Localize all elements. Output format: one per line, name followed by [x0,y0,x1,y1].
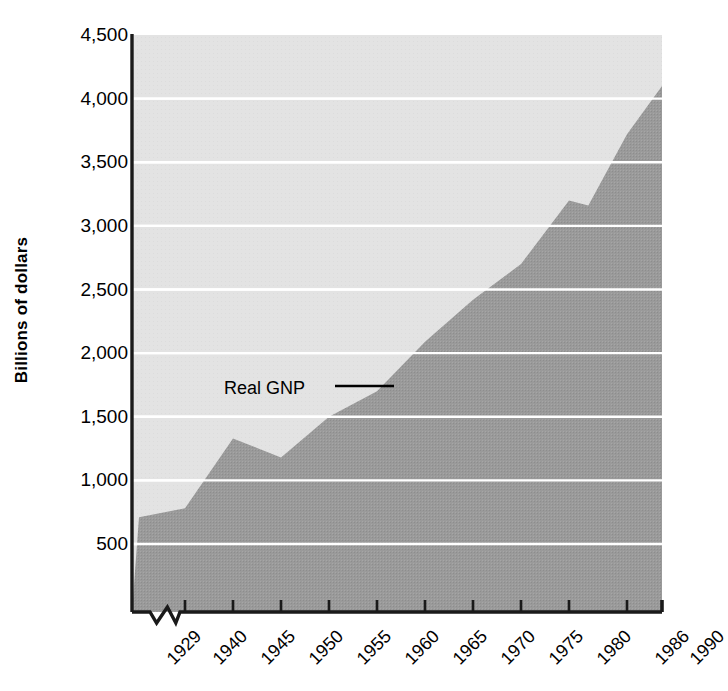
y-axis-tick-label: 4,500 [56,24,128,46]
y-axis-tick-label: 4,000 [56,88,128,110]
y-axis-tick-label: 1,500 [56,406,128,428]
y-axis-tick-label: 2,500 [56,279,128,301]
real-gnp-annotation-label: Real GNP [224,378,305,399]
y-axis-tick-labels: 5001,0001,5002,0002,5003,0003,5004,0004,… [48,0,128,691]
y-axis-title: Billions of dollars [12,210,32,410]
y-axis-tick-label: 1,000 [56,469,128,491]
y-axis-tick-label: 3,000 [56,215,128,237]
y-axis-tick-label: 3,500 [56,151,128,173]
y-axis-tick-label: 2,000 [56,342,128,364]
y-axis-tick-label: 500 [56,533,128,555]
